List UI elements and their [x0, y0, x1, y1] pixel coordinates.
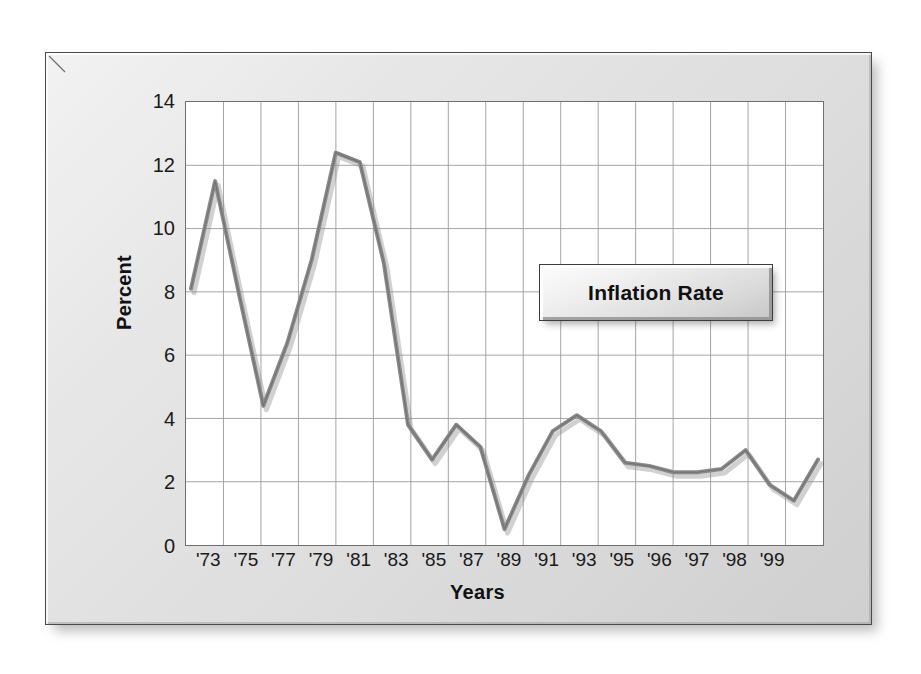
- x-tick-label: '96: [647, 550, 672, 569]
- series-inflation-rate: [186, 102, 823, 545]
- plot-area: [185, 101, 824, 546]
- x-tick-label: '97: [685, 550, 710, 569]
- x-tick-label: '83: [384, 550, 409, 569]
- y-tick-label: 8: [135, 282, 175, 302]
- corner-nick-decoration: [48, 55, 68, 75]
- x-tick-label: '95: [609, 550, 634, 569]
- legend-inflation-rate[interactable]: Inflation Rate: [539, 264, 773, 321]
- y-tick-label: 14: [135, 91, 175, 111]
- y-tick-label: 12: [135, 155, 175, 175]
- x-tick-label: '91: [534, 550, 559, 569]
- x-tick-label: '73: [196, 550, 221, 569]
- x-tick-label: '93: [572, 550, 597, 569]
- x-axis-tick-labels: '73'75'77'79'81'83'85'87'89'91'93'95'96'…: [185, 550, 824, 580]
- legend-label: Inflation Rate: [588, 281, 724, 305]
- y-tick-label: 6: [135, 345, 175, 365]
- x-axis-title-text: Years: [450, 581, 505, 603]
- y-tick-label: 4: [135, 409, 175, 429]
- x-tick-label: '77: [271, 550, 296, 569]
- x-axis-title: Years: [46, 581, 873, 604]
- x-tick-label: '79: [309, 550, 334, 569]
- y-axis-tick-labels: 02468101214: [129, 101, 175, 546]
- x-tick-label: '85: [421, 550, 446, 569]
- y-tick-label: 10: [135, 218, 175, 238]
- x-tick-label: '81: [346, 550, 371, 569]
- x-tick-label: '89: [497, 550, 522, 569]
- y-tick-label: 0: [135, 536, 175, 556]
- x-tick-label: '87: [459, 550, 484, 569]
- x-tick-label: '98: [722, 550, 747, 569]
- x-tick-label: '75: [234, 550, 259, 569]
- y-tick-label: 2: [135, 472, 175, 492]
- figure-panel: Percent 02468101214 '73'75'77'79'81'83'8…: [45, 52, 872, 625]
- x-tick-label: '99: [760, 550, 785, 569]
